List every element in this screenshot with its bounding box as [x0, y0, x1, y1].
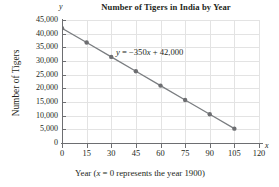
equation-annotation: y = −350x + 42,000 — [116, 47, 183, 57]
x-tick — [87, 144, 88, 148]
data-point — [84, 40, 88, 44]
data-series — [62, 20, 259, 143]
x-tick — [210, 144, 211, 148]
chart-title: Number of Tigers in India by Year — [55, 2, 277, 12]
x-tick — [136, 144, 137, 148]
gridline-vertical — [259, 20, 260, 143]
x-axis-title: Year (x = 0 represents the year 1900) — [20, 168, 260, 178]
data-point — [109, 55, 113, 59]
equation-rhs: = −350 — [120, 47, 147, 57]
x-tick — [259, 144, 260, 148]
y-axis-title: Number of Tigers — [11, 23, 21, 143]
x-tick — [111, 144, 112, 148]
data-point — [232, 126, 236, 130]
chart-figure: Number of Tigers in India by Year y x 05… — [0, 0, 279, 187]
x-tick — [161, 144, 162, 148]
data-point — [134, 69, 138, 73]
data-point — [208, 112, 212, 116]
x-tick — [185, 144, 186, 148]
x-tick — [62, 144, 63, 148]
x-tick-label: 120 — [244, 149, 274, 158]
x-axis-title-suffix: = 0 represents the year 1900) — [100, 168, 205, 178]
x-axis-title-prefix: Year ( — [75, 168, 96, 178]
data-point — [158, 83, 162, 87]
x-tick — [234, 144, 235, 148]
data-point — [183, 98, 187, 102]
equation-tail: + 42,000 — [151, 47, 184, 57]
y-axis-letter: y — [59, 2, 63, 11]
x-axis-line — [61, 143, 263, 144]
